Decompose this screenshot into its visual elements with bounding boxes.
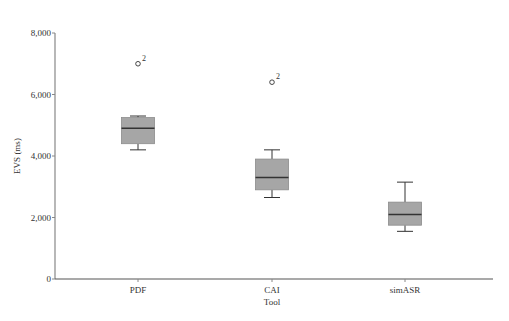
y-tick-label: 2,000	[31, 213, 52, 223]
y-axis-title: EVS (ms)	[12, 138, 22, 174]
box-pdf	[122, 118, 155, 144]
x-axis-title: Tool	[264, 297, 281, 307]
y-tick-label: 0	[47, 274, 52, 284]
x-tick-label-cai: CAI	[264, 285, 280, 295]
outlier-label-cai: 2	[276, 72, 280, 81]
outlier-marker-pdf	[136, 61, 141, 66]
x-tick-label-simasr: simASR	[390, 285, 421, 295]
y-tick-label: 8,000	[31, 28, 52, 38]
box-plot-chart: 02,0004,0006,0008,000EVS (ms)PDFCAIsimAS…	[0, 0, 509, 321]
outlier-label-pdf: 2	[142, 54, 146, 63]
box-cai	[256, 159, 289, 190]
outlier-marker-cai	[270, 80, 275, 85]
y-tick-label: 4,000	[31, 151, 52, 161]
y-tick-label: 6,000	[31, 90, 52, 100]
x-tick-label-pdf: PDF	[130, 285, 147, 295]
box-simasr	[389, 202, 422, 225]
